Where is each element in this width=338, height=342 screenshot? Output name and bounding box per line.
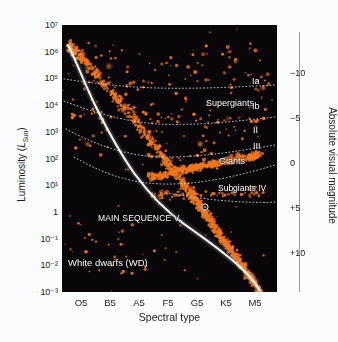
y-tick-10e7: 10⁷: [45, 20, 58, 30]
right-axis-title: Absolute visual magnitude: [327, 86, 338, 246]
y2-tick-minus5: −5: [290, 113, 300, 123]
y2-tick-minus10: −10: [290, 68, 305, 78]
y-axis-title-text: Luminosity (LSun): [16, 127, 27, 201]
y-tick-10e4: 10⁴: [44, 100, 58, 110]
x-tick-A5: A5: [133, 297, 145, 308]
y-tick-10e-2: 10⁻²: [40, 260, 58, 270]
hr-diagram-svg: [62, 25, 277, 292]
y-axis-ticks: 10⁷ 10⁶ 10⁵ 10⁴ 10³ 10² 10¹ 1 10⁻¹ 10⁻² …: [0, 0, 58, 342]
y2-tick-plus5: +5: [290, 203, 300, 213]
y-tick-1: 1: [53, 207, 58, 217]
curve-class-II: [66, 129, 275, 157]
plot-area: Ia Supergiants Ib II III Giants Subgiant…: [62, 25, 277, 292]
y-tick-10e5: 10⁵: [45, 73, 58, 83]
y-tick-10e2: 10²: [45, 154, 58, 164]
y-tick-10e3: 10³: [45, 127, 58, 137]
x-tick-B5: B5: [104, 297, 116, 308]
luminosity-class-curves: [64, 79, 275, 202]
y-tick-10e6: 10⁶: [45, 47, 58, 57]
x-axis-title: Spectral type: [62, 311, 277, 323]
x-tick-K5: K5: [220, 297, 232, 308]
x-tick-G5: G5: [191, 297, 204, 308]
x-tick-F5: F5: [162, 297, 173, 308]
y-tick-10e-3: 10⁻³: [40, 287, 58, 297]
star-scatter-points: [62, 28, 273, 292]
y-tick-10e1: 10¹: [45, 180, 58, 190]
y-tick-10e-1: 10⁻¹: [40, 234, 58, 244]
sun-marker: [202, 204, 208, 210]
y2-tick-plus10: +10: [290, 248, 305, 258]
y-axis-title: Luminosity (LSun): [16, 95, 29, 235]
y2-tick-zero: 0: [290, 158, 295, 168]
x-tick-O5: O5: [75, 297, 88, 308]
x-tick-M5: M5: [248, 297, 261, 308]
